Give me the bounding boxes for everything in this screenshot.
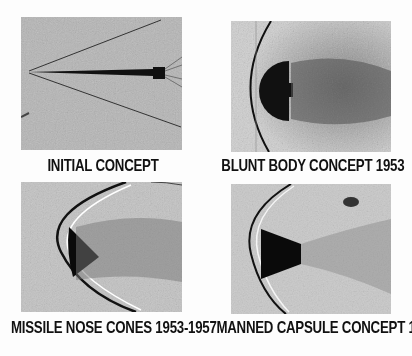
caption-initial-concept: INITIAL CONCEPT xyxy=(23,156,184,176)
caption-missile-nose-cones: MISSILE NOSE CONES 1953-1957 xyxy=(11,318,195,338)
caption-blunt-body-concept: BLUNT BODY CONCEPT 1953 xyxy=(221,156,400,176)
photo-blunt-body-concept xyxy=(231,21,391,152)
photo-manned-capsule-concept xyxy=(231,184,391,314)
photo-missile-nose-cones xyxy=(21,182,182,312)
photo-initial-concept xyxy=(21,17,182,150)
caption-manned-capsule-concept: MANNED CAPSULE CONCEPT 1957 xyxy=(216,318,403,338)
